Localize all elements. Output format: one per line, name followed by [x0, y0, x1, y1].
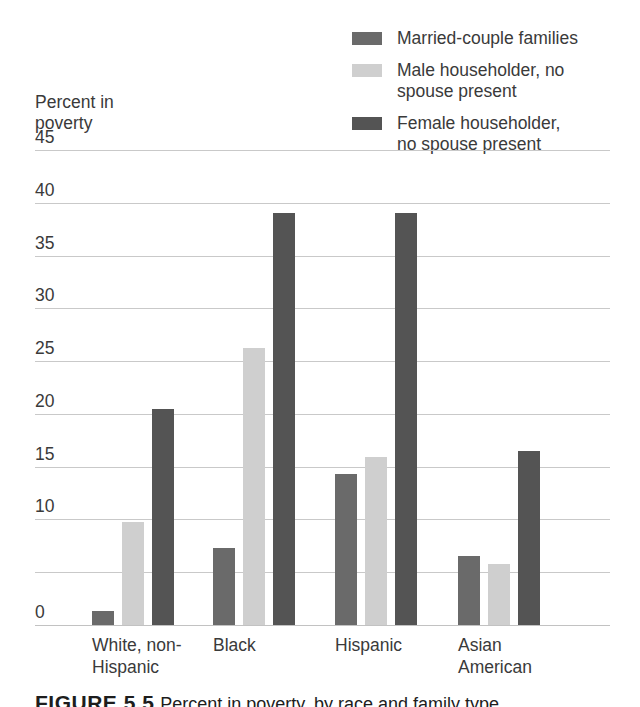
x-axis-category-labels: White, non- HispanicBlackHispanicAsian A… — [35, 634, 610, 689]
bar-1-1 — [243, 348, 265, 625]
legend-swatch-icon-male-householder — [352, 64, 382, 77]
gridline-0 — [35, 625, 610, 626]
x-axis-label-1: Black — [213, 634, 331, 656]
bar-2-2 — [395, 213, 417, 625]
bar-2-1 — [365, 457, 387, 625]
bar-0-0 — [92, 611, 114, 625]
bars-group — [35, 150, 610, 625]
figure-caption-label: FIGURE 5.5 — [35, 691, 154, 707]
plot-area: 45403530252015100 — [35, 150, 610, 625]
legend-swatch-icon-married-couple-families — [352, 32, 382, 45]
legend-item-male-householder: Male householder, no spouse present — [352, 60, 622, 102]
x-axis-label-2: Hispanic — [335, 634, 453, 656]
figure-caption: FIGURE 5.5 Percent in poverty, by race a… — [35, 691, 640, 707]
legend-label-male-householder: Male householder, no spouse present — [397, 60, 564, 102]
bar-0-2 — [152, 409, 174, 625]
bar-2-0 — [335, 474, 357, 625]
legend-label-female-householder: Female householder, no spouse present — [397, 113, 560, 155]
x-axis-label-3: Asian American — [458, 634, 576, 678]
figure-caption-text: Percent in poverty, by race and family t… — [160, 694, 499, 707]
bar-3-1 — [488, 564, 510, 625]
legend-item-married-couple-families: Married-couple families — [352, 28, 622, 49]
bar-3-0 — [458, 556, 480, 625]
legend-swatch-icon-female-householder — [352, 117, 382, 130]
bar-3-2 — [518, 451, 540, 625]
bar-1-0 — [213, 548, 235, 625]
bar-0-1 — [122, 522, 144, 625]
poverty-bar-chart-figure: Married-couple families Male householder… — [0, 0, 640, 707]
chart-legend: Married-couple families Male householder… — [352, 28, 622, 166]
bar-1-2 — [273, 213, 295, 625]
legend-label-married-couple-families: Married-couple families — [397, 28, 578, 49]
x-axis-label-0: White, non- Hispanic — [92, 634, 210, 678]
y-tick-label-45: 45 — [35, 129, 81, 147]
legend-item-female-householder: Female householder, no spouse present — [352, 113, 622, 155]
